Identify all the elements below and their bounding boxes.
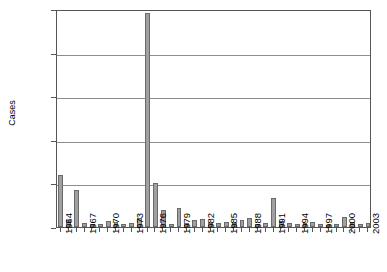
x-axis-tick-label: 1979 bbox=[182, 213, 192, 234]
bar bbox=[74, 190, 79, 227]
x-axis-tick-mark bbox=[84, 228, 85, 232]
y-axis-tick-mark bbox=[51, 228, 56, 229]
x-axis-tick-mark bbox=[312, 228, 313, 232]
x-axis-tick-mark bbox=[343, 228, 344, 232]
bar bbox=[192, 220, 197, 227]
x-axis-tick-label: 1976 bbox=[158, 213, 168, 234]
x-axis-tick-mark bbox=[273, 228, 274, 232]
x-axis-tick-label: 1994 bbox=[300, 213, 310, 234]
x-axis-tick-mark bbox=[154, 228, 155, 232]
x-axis-tick-label: 1988 bbox=[253, 213, 263, 234]
x-axis-tick-mark bbox=[217, 228, 218, 232]
gridline bbox=[57, 142, 370, 143]
x-axis-tick-mark bbox=[194, 228, 195, 232]
x-axis-tick-mark bbox=[288, 228, 289, 232]
x-axis-tick-mark bbox=[76, 228, 77, 232]
x-axis-tick-mark bbox=[91, 228, 92, 232]
x-axis-tick-label: 1982 bbox=[206, 213, 216, 234]
x-axis-tick-mark bbox=[328, 228, 329, 232]
x-axis-tick-label: 1973 bbox=[135, 213, 145, 234]
bar-chart: Cases 0400800120016002000196419671970197… bbox=[0, 0, 387, 272]
x-axis-tick-mark bbox=[336, 228, 337, 232]
x-axis-tick-mark bbox=[225, 228, 226, 232]
x-axis-tick-mark bbox=[131, 228, 132, 232]
x-axis-tick-mark bbox=[351, 228, 352, 232]
gridline bbox=[57, 55, 370, 56]
x-axis-tick-label: 2000 bbox=[347, 213, 357, 234]
gridline bbox=[57, 185, 370, 186]
y-axis-tick-mark bbox=[51, 54, 56, 55]
x-axis-tick-mark bbox=[280, 228, 281, 232]
x-axis-tick-mark bbox=[99, 228, 100, 232]
bar bbox=[310, 222, 315, 227]
x-axis-tick-label: 1967 bbox=[88, 213, 98, 234]
x-axis-tick-mark bbox=[139, 228, 140, 232]
gridline bbox=[57, 98, 370, 99]
bar bbox=[263, 223, 268, 227]
x-axis-tick-mark bbox=[265, 228, 266, 232]
x-axis-tick-label: 1964 bbox=[64, 213, 74, 234]
x-axis-tick-mark bbox=[68, 228, 69, 232]
bar bbox=[169, 224, 174, 227]
x-axis-tick-mark bbox=[367, 228, 368, 232]
x-axis-tick-mark bbox=[296, 228, 297, 232]
x-axis-tick-mark bbox=[186, 228, 187, 232]
x-axis-tick-mark bbox=[241, 228, 242, 232]
bar bbox=[334, 224, 339, 227]
y-axis-title: Cases bbox=[7, 78, 17, 148]
bar bbox=[358, 224, 363, 227]
x-axis-tick-mark bbox=[107, 228, 108, 232]
y-axis-tick-mark bbox=[51, 97, 56, 98]
bar bbox=[121, 224, 126, 227]
x-axis-tick-mark bbox=[257, 228, 258, 232]
x-axis-tick-mark bbox=[123, 228, 124, 232]
x-axis-tick-mark bbox=[178, 228, 179, 232]
x-axis-tick-mark bbox=[233, 228, 234, 232]
x-axis-tick-mark bbox=[170, 228, 171, 232]
plot-area bbox=[56, 10, 371, 228]
bar bbox=[145, 13, 150, 227]
x-axis-tick-mark bbox=[162, 228, 163, 232]
x-axis-tick-mark bbox=[304, 228, 305, 232]
bar bbox=[287, 223, 292, 227]
x-axis-tick-label: 1991 bbox=[277, 213, 287, 234]
y-axis-tick-mark bbox=[51, 141, 56, 142]
bar bbox=[216, 223, 221, 227]
x-axis-tick-mark bbox=[202, 228, 203, 232]
x-axis-tick-mark bbox=[359, 228, 360, 232]
bar bbox=[98, 224, 103, 227]
x-axis-tick-label: 1985 bbox=[229, 213, 239, 234]
y-axis-tick-mark bbox=[51, 184, 56, 185]
x-axis-tick-mark bbox=[210, 228, 211, 232]
bar bbox=[240, 220, 245, 227]
y-axis-tick-mark bbox=[51, 10, 56, 11]
x-axis-tick-label: 2003 bbox=[371, 213, 381, 234]
x-axis-tick-label: 1970 bbox=[111, 213, 121, 234]
x-axis-tick-mark bbox=[60, 228, 61, 232]
x-axis-tick-mark bbox=[115, 228, 116, 232]
x-axis-tick-label: 1997 bbox=[324, 213, 334, 234]
x-axis-tick-mark bbox=[249, 228, 250, 232]
x-axis-tick-mark bbox=[147, 228, 148, 232]
x-axis-tick-mark bbox=[320, 228, 321, 232]
